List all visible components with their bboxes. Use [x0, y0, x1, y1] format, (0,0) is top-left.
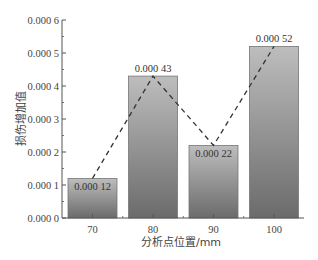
data-label-90: 0.000 22: [195, 148, 232, 159]
x-tick-label: 90: [208, 224, 219, 235]
bar-100: [250, 46, 299, 218]
y-tick-label: 0.000 0: [28, 213, 60, 224]
data-label-70: 0.000 12: [74, 181, 111, 192]
trend-line: [93, 46, 275, 178]
x-tick-label: 70: [87, 224, 98, 235]
data-label-100: 0.000 52: [256, 33, 293, 44]
data-label-80: 0.000 43: [135, 63, 172, 74]
y-axis-title: 损伤增加值: [14, 91, 28, 146]
y-tick-label: 0.000 1: [28, 180, 60, 191]
x-axis-title: 分析点位置/mm: [141, 235, 221, 249]
y-tick-label: 0.000 4: [28, 81, 60, 92]
y-tick-label: 0.000 3: [28, 114, 60, 125]
trend-line-group: [93, 46, 275, 178]
y-tick-label: 0.000 5: [28, 48, 60, 59]
y-tick-label: 0.000 2: [28, 147, 60, 158]
x-tick-label: 80: [148, 224, 159, 235]
bar-80: [129, 76, 178, 218]
bar-chart: 0.000 120.000 430.000 220.000 520.000 00…: [0, 0, 318, 260]
x-tick-label: 100: [266, 224, 282, 235]
y-tick-label: 0.000 6: [28, 15, 60, 26]
